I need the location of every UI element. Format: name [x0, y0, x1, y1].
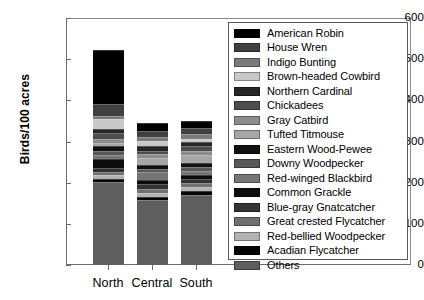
bar-segment [181, 139, 212, 143]
y-tick-mark [66, 18, 71, 19]
legend-item[interactable]: Blue-gray Gnatcatcher [234, 200, 407, 215]
stacked-bar [137, 18, 168, 265]
bar-segment [93, 104, 124, 116]
legend-label: Great crested Flycatcher [267, 216, 385, 227]
y-tick-mark [66, 142, 71, 143]
cropped-caption-text [0, 0, 424, 8]
legend-item[interactable]: Eastern Wood-Pewee [234, 142, 407, 157]
chart-figure: 0100200300400500600 Birds/100 acres Nort… [0, 0, 424, 300]
legend-swatch-icon [234, 29, 260, 38]
chart-legend: American RobinHouse WrenIndigo BuntingBr… [228, 22, 408, 260]
legend-item[interactable]: House Wren [234, 41, 407, 56]
legend-item[interactable]: Gray Catbird [234, 113, 407, 128]
legend-label: Red-winged Blackbird [267, 173, 372, 184]
legend-swatch-icon [234, 116, 260, 125]
y-tick-mark [66, 224, 71, 225]
legend-item[interactable]: Acadian Flycatcher [234, 244, 407, 259]
legend-item[interactable]: Tufted Titmouse [234, 128, 407, 143]
legend-swatch-icon [234, 188, 260, 197]
bar-segment [137, 146, 168, 151]
bar-segment [181, 155, 212, 163]
bar-segment [181, 179, 212, 184]
legend-label: Tufted Titmouse [267, 129, 344, 140]
x-tick-mark [152, 265, 153, 270]
y-axis-title: Birds/100 acres [18, 49, 32, 189]
bar-segment [93, 172, 124, 175]
legend-swatch-icon [234, 145, 260, 154]
legend-label: Acadian Flycatcher [267, 245, 359, 256]
legend-label: Brown-headed Cowbird [267, 71, 380, 82]
legend-item[interactable]: Red-winged Blackbird [234, 171, 407, 186]
x-tick-mark [196, 265, 197, 270]
legend-item[interactable]: Others [234, 258, 407, 273]
legend-swatch-icon [234, 159, 260, 168]
legend-label: Blue-gray Gnatcatcher [267, 202, 375, 213]
legend-item[interactable]: Brown-headed Cowbird [234, 70, 407, 85]
legend-item[interactable]: Indigo Bunting [234, 55, 407, 70]
bar-segment [137, 184, 168, 189]
bar-segment [137, 172, 168, 180]
legend-item[interactable]: Northern Cardinal [234, 84, 407, 99]
bar-segment [93, 116, 124, 119]
legend-swatch-icon [234, 72, 260, 81]
bar-segment [137, 154, 168, 158]
legend-label: Chickadees [267, 100, 323, 111]
bar-segment [137, 169, 168, 172]
bar-segment [93, 168, 124, 172]
legend-label: Others [267, 260, 299, 271]
bar-segment [181, 121, 212, 128]
bar-segment [181, 163, 212, 167]
bar-segment [137, 193, 168, 197]
bar-segment [137, 151, 168, 155]
bar-segment [181, 167, 212, 171]
bar-segment [93, 139, 124, 143]
legend-swatch-icon [234, 58, 260, 67]
bar-segment [181, 175, 212, 179]
bar-segment [93, 182, 124, 265]
legend-swatch-icon [234, 101, 260, 110]
legend-swatch-icon [234, 232, 260, 241]
legend-swatch-icon [234, 203, 260, 212]
legend-label: Indigo Bunting [267, 57, 336, 68]
bar-segment [93, 119, 124, 129]
legend-item[interactable]: Common Grackle [234, 186, 407, 201]
legend-swatch-icon [234, 43, 260, 52]
bar-segment [137, 123, 168, 131]
legend-swatch-icon [234, 87, 260, 96]
y-tick-mark [66, 183, 71, 184]
bar-segment [93, 159, 124, 168]
stacked-bar [181, 18, 212, 265]
bar-segment [181, 146, 212, 151]
legend-label: Downy Woodpecker [267, 158, 364, 169]
bar-segment [93, 50, 124, 104]
bar-segment [137, 165, 168, 169]
legend-label: Common Grackle [267, 187, 351, 198]
bar-segment [93, 146, 124, 151]
legend-swatch-icon [234, 246, 260, 255]
legend-item[interactable]: Great crested Flycatcher [234, 215, 407, 230]
bar-segment [181, 151, 212, 154]
bar-segment [181, 128, 212, 133]
bar-segment [137, 189, 168, 193]
legend-label: Northern Cardinal [267, 86, 352, 97]
legend-item[interactable]: Chickadees [234, 99, 407, 114]
bar-segment [181, 187, 212, 191]
bar-segment [137, 131, 168, 137]
legend-item[interactable]: American Robin [234, 26, 407, 41]
y-tick-mark [66, 100, 71, 101]
legend-label: American Robin [267, 28, 344, 39]
bar-segment [93, 179, 124, 182]
bar-segment [93, 151, 124, 155]
legend-item[interactable]: Downy Woodpecker [234, 157, 407, 172]
legend-swatch-icon [234, 261, 260, 270]
bar-segment [181, 191, 212, 195]
bar-segment [93, 133, 124, 139]
bar-segment [137, 141, 168, 146]
bar-segment [93, 155, 124, 160]
bar-segment [137, 180, 168, 184]
bar-segment [181, 171, 212, 175]
bar-segment [137, 197, 168, 200]
bar-segment [93, 143, 124, 146]
legend-item[interactable]: Red-bellied Woodpecker [234, 229, 407, 244]
legend-swatch-icon [234, 217, 260, 226]
